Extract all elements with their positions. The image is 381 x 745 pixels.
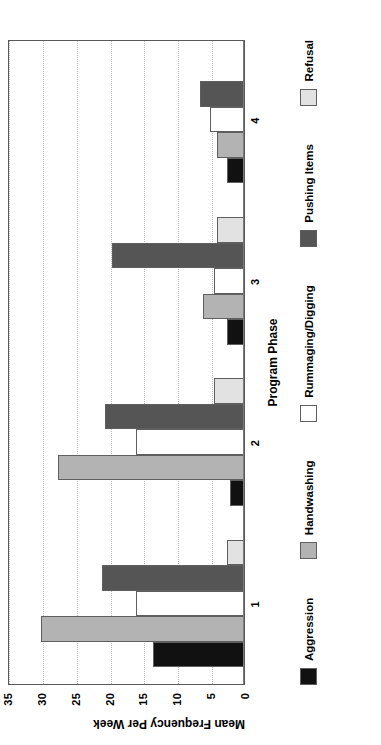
legend-swatch: [300, 405, 317, 422]
bar: [58, 455, 244, 480]
legend-swatch: [300, 89, 317, 106]
bar: [41, 616, 244, 641]
value-axis-tick-label: 15: [137, 693, 149, 727]
value-axis-tick-label: 35: [2, 693, 14, 727]
legend-label: Handwashing: [303, 460, 315, 535]
legend-item: Refusal: [300, 40, 317, 106]
bar: [112, 243, 244, 268]
bar: [227, 540, 244, 565]
legend-label: Rummaging/Digging: [303, 285, 315, 397]
legend-item: Rummaging/Digging: [300, 285, 317, 421]
bar: [203, 294, 244, 319]
legend-item: Aggression: [300, 598, 317, 685]
bar: [214, 378, 244, 403]
legend-swatch: [300, 542, 317, 559]
value-axis-tick-label: 10: [171, 693, 183, 727]
bar: [136, 591, 244, 616]
chart-figure: Mean Frequency Per Week 05101520253035 1…: [0, 0, 381, 745]
bar: [227, 319, 244, 344]
value-axis-baseline: [243, 41, 244, 684]
bar: [214, 268, 244, 293]
category-axis-tick-label: 2: [249, 440, 261, 446]
value-axis-title: Mean Frequency Per Week: [93, 717, 245, 731]
value-axis-tick-label: 20: [104, 693, 116, 727]
legend-item: Handwashing: [300, 460, 317, 559]
gridline: [43, 41, 44, 684]
bar: [200, 81, 244, 106]
bar: [217, 132, 244, 157]
legend-item: Pushing Items: [300, 144, 317, 247]
bar: [227, 158, 244, 183]
category-axis-title: Program Phase: [266, 40, 280, 685]
legend-swatch: [300, 230, 317, 247]
bar: [105, 404, 244, 429]
value-axis-tick-label: 0: [239, 693, 251, 727]
gridline: [9, 41, 10, 684]
legend: AggressionHandwashingRummaging/DiggingPu…: [300, 40, 317, 685]
bar: [153, 642, 244, 667]
category-axis-tick-label: 1: [249, 601, 261, 607]
bar: [210, 107, 244, 132]
category-axis-tick-label: 4: [249, 118, 261, 124]
bar: [136, 429, 244, 454]
plot-area: [8, 40, 245, 685]
bar: [230, 480, 244, 505]
gridline: [77, 41, 78, 684]
legend-swatch: [300, 668, 317, 685]
value-axis-tick-label: 25: [70, 693, 82, 727]
bar: [102, 565, 244, 590]
value-axis-tick-label: 5: [205, 693, 217, 727]
legend-label: Aggression: [303, 598, 315, 661]
value-axis-tick-label: 30: [36, 693, 48, 727]
legend-label: Pushing Items: [303, 144, 315, 223]
category-axis-tick-label: 3: [249, 279, 261, 285]
legend-label: Refusal: [303, 40, 315, 82]
bar: [217, 217, 244, 242]
